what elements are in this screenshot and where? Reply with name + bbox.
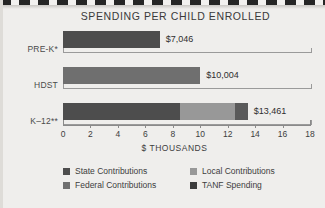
x-axis-tick bbox=[145, 125, 146, 128]
legend-item: Federal Contributions bbox=[63, 180, 156, 190]
bar-segment bbox=[235, 103, 248, 120]
x-axis-tick-label: 16 bbox=[278, 129, 287, 139]
chart-figure: SPENDING PER CHILD ENROLLED PRE-K*$7,046… bbox=[0, 0, 325, 208]
category-label: K–12** bbox=[30, 116, 58, 126]
x-axis-tick-label: 8 bbox=[170, 129, 175, 139]
x-axis-title: $ THOUSANDS bbox=[0, 143, 325, 153]
x-axis-tick-label: 10 bbox=[195, 129, 204, 139]
row-bracket bbox=[63, 48, 312, 53]
x-axis-tick-label: 18 bbox=[305, 129, 314, 139]
bar-value-label: $7,046 bbox=[166, 34, 194, 44]
legend-swatch-icon bbox=[190, 182, 197, 189]
plot-area: PRE-K*$7,046HDST$10,004K–12**$13,4610246… bbox=[0, 0, 325, 208]
legend-label: Federal Contributions bbox=[75, 180, 156, 190]
category-label-wrap: PRE-K* bbox=[0, 44, 58, 54]
category-label-wrap: HDST bbox=[0, 80, 58, 90]
x-axis-tick-label: 4 bbox=[116, 129, 121, 139]
legend-swatch-icon bbox=[63, 182, 70, 189]
x-axis-tick-label: 14 bbox=[250, 129, 259, 139]
bar-value-label: $10,004 bbox=[206, 70, 239, 80]
x-axis-tick-label: 0 bbox=[61, 129, 66, 139]
x-axis-tick-label: 2 bbox=[88, 129, 93, 139]
x-axis-tick bbox=[255, 125, 256, 128]
bar-1 bbox=[63, 31, 160, 48]
x-axis-tick bbox=[310, 120, 311, 126]
bar-segment bbox=[63, 103, 180, 120]
x-axis-tick-label: 12 bbox=[223, 129, 232, 139]
x-axis-line bbox=[63, 125, 310, 126]
x-axis-tick bbox=[200, 125, 201, 128]
legend-label: State Contributions bbox=[75, 166, 147, 176]
x-axis-tick bbox=[173, 125, 174, 128]
x-axis-tick-label: 6 bbox=[143, 129, 148, 139]
x-axis-tick bbox=[283, 125, 284, 128]
x-axis-tick bbox=[118, 125, 119, 128]
bar-3 bbox=[63, 103, 248, 120]
legend-label: TANF Spending bbox=[202, 180, 262, 190]
legend-item: Local Contributions bbox=[190, 166, 275, 176]
legend-swatch-icon bbox=[63, 168, 70, 175]
legend-label: Local Contributions bbox=[202, 166, 275, 176]
x-axis-tick bbox=[90, 125, 91, 128]
legend-item: TANF Spending bbox=[190, 180, 262, 190]
category-label: HDST bbox=[34, 80, 58, 90]
row-bracket bbox=[63, 84, 312, 89]
category-label: PRE-K* bbox=[28, 44, 59, 54]
x-axis-tick bbox=[63, 120, 64, 126]
category-label-wrap: K–12** bbox=[0, 116, 58, 126]
x-axis-tick bbox=[228, 125, 229, 128]
bar-segment bbox=[180, 103, 235, 120]
bar-value-label: $13,461 bbox=[254, 106, 287, 116]
bar-2 bbox=[63, 67, 200, 84]
bar-segment bbox=[63, 31, 160, 48]
legend-swatch-icon bbox=[190, 168, 197, 175]
legend-item: State Contributions bbox=[63, 166, 147, 176]
bar-segment bbox=[63, 67, 200, 84]
